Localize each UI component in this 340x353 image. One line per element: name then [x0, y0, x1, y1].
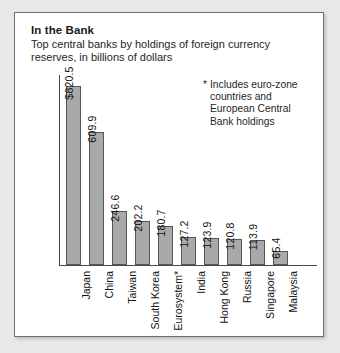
bar-value-label: 120.8	[224, 222, 236, 249]
bar-group[interactable]: 65.4Malaysia	[270, 75, 293, 265]
chart-title: In the Bank	[31, 23, 299, 37]
bar-value-label: $820.5	[63, 66, 75, 99]
bar-rect[interactable]	[66, 86, 81, 265]
headline-block: In the Bank Top central banks by holding…	[31, 23, 299, 64]
bar-group[interactable]: 127.2India	[178, 75, 201, 265]
category-label: Japan	[80, 271, 92, 300]
category-label: Malaysia	[287, 271, 299, 312]
bar-group[interactable]: 120.8Russia	[224, 75, 247, 265]
chart-panel: In the Bank Top central banks by holding…	[14, 12, 324, 337]
bar-value-label: 127.2	[178, 220, 190, 247]
category-label: India	[195, 271, 207, 294]
category-label: Russia	[241, 271, 253, 303]
bar-value-label: 202.2	[132, 204, 144, 231]
bar-group[interactable]: 113.9Singapore	[247, 75, 270, 265]
bar-value-label: 180.7	[155, 209, 167, 236]
bar-group[interactable]: 246.6Taiwan	[109, 75, 132, 265]
bar-group[interactable]: $820.5Japan	[63, 75, 86, 265]
bar-group[interactable]: 202.2South Korea	[132, 75, 155, 265]
bar-value-label: 113.9	[247, 224, 259, 251]
bar-value-label: 123.9	[201, 221, 213, 248]
category-label: Singapore	[264, 271, 276, 319]
category-label: China	[103, 271, 115, 298]
bar-rect[interactable]	[89, 132, 104, 265]
plot-area: $820.5Japan609.9China246.6Taiwan202.2Sou…	[59, 75, 317, 266]
category-label: South Korea	[149, 271, 161, 329]
category-label: Hong Kong	[218, 271, 230, 324]
bar-group[interactable]: 609.9China	[86, 75, 109, 265]
chart-subtitle: Top central banks by holdings of foreign…	[31, 38, 289, 64]
category-label: Eurosystem*	[172, 271, 184, 331]
bar-value-label: 246.6	[109, 194, 121, 221]
bar-group[interactable]: 180.7Eurosystem*	[155, 75, 178, 265]
y-axis-line	[59, 75, 60, 266]
bar-value-label: 65.4	[270, 237, 282, 258]
x-axis-line	[59, 265, 317, 266]
category-label: Taiwan	[126, 271, 138, 304]
bar-group[interactable]: 123.9Hong Kong	[201, 75, 224, 265]
bar-value-label: 609.9	[86, 115, 98, 142]
